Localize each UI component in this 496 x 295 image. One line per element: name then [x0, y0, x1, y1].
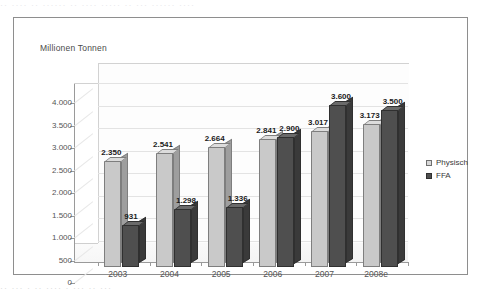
bar-front-face	[381, 110, 398, 268]
y-axis-tick-label: 2.000	[26, 188, 72, 197]
bar-front-face	[122, 225, 139, 267]
bar-ffa-2005[interactable]	[226, 207, 243, 267]
legend-swatch-icon-physisch	[426, 160, 432, 166]
x-axis-label-2005: 2005	[198, 269, 244, 279]
data-label-ffa-2006: 2.900	[279, 124, 299, 133]
legend-label-ffa: FFA	[436, 171, 451, 180]
data-label-physisch-2004: 2.541	[153, 140, 173, 149]
bar-physisch-2008e[interactable]	[363, 124, 380, 267]
x-axis-tick	[408, 262, 409, 266]
gridline	[98, 128, 408, 129]
gridline	[98, 151, 408, 152]
data-label-ffa-2008e: 3.500	[383, 97, 403, 106]
y-axis-depth-line	[74, 223, 94, 239]
data-label-physisch-2003: 2.350	[101, 148, 121, 157]
bar-side-face	[294, 128, 301, 263]
bar-front-face	[311, 131, 328, 267]
data-label-ffa-2007: 3.600	[331, 92, 351, 101]
scanned-text-fragment-bottom: ·· ··· · ·· ···· · ··· ·· ···	[0, 283, 496, 295]
x-axis-tick	[150, 262, 151, 266]
bar-front-face	[226, 207, 243, 267]
x-axis-label-2007: 2007	[302, 269, 348, 279]
chart-floor-left-edge	[74, 243, 98, 264]
y-axis-tick-label: 1.000	[26, 233, 72, 242]
data-label-physisch-2007: 3.017	[308, 118, 328, 127]
y-axis-depth-line	[74, 111, 94, 127]
data-label-physisch-2006: 2.841	[256, 126, 276, 135]
x-axis-tick	[253, 262, 254, 266]
data-label-ffa-2005: 1.336	[228, 194, 248, 203]
bar-physisch-2005[interactable]	[208, 147, 225, 267]
x-axis-tick	[356, 262, 357, 266]
data-label-physisch-2005: 2.664	[205, 134, 225, 143]
x-axis-tick	[305, 262, 306, 266]
y-axis-depth-line	[74, 268, 94, 284]
x-axis-tick	[98, 262, 99, 266]
bar-side-face	[346, 97, 353, 263]
y-axis-tick-label: 3.000	[26, 143, 72, 152]
legend-item-ffa[interactable]: FFA	[426, 171, 468, 180]
y-axis-title: Millionen Tonnen	[40, 43, 107, 53]
y-axis-tick-label: 1.500	[26, 211, 72, 220]
bar-ffa-2004[interactable]	[174, 209, 191, 267]
gridline	[98, 196, 408, 197]
bar-ffa-2003[interactable]	[122, 225, 139, 267]
data-label-ffa-2003: 931	[124, 212, 137, 221]
data-label-ffa-2004: 1.298	[176, 196, 196, 205]
scanned-text-fragment-top: ·· ···· ·· ······ ·· ···· ····· ·· ··· ·…	[0, 0, 496, 12]
y-axis-tick-label: 4.000	[26, 98, 72, 107]
bar-physisch-2007[interactable]	[311, 131, 328, 267]
legend-item-physisch[interactable]: Physisch	[426, 158, 468, 167]
bar-physisch-2006[interactable]	[259, 139, 276, 267]
legend-label-physisch: Physisch	[436, 158, 468, 167]
gridline	[98, 173, 408, 174]
bar-front-face	[363, 124, 380, 267]
gridline	[98, 106, 408, 107]
x-axis-label-2006: 2006	[250, 269, 296, 279]
bar-physisch-2003[interactable]	[104, 161, 121, 267]
chart-frame: Millionen Tonnen 05001.0001.5002.0002.50…	[13, 17, 468, 275]
y-axis-depth-line	[74, 178, 94, 194]
chart-legend: Physisch FFA	[426, 158, 468, 184]
y-axis-depth-line	[74, 156, 94, 172]
bar-front-face	[208, 147, 225, 267]
y-axis-depth-line	[74, 133, 94, 149]
bar-front-face	[104, 161, 121, 267]
gridline	[98, 83, 408, 84]
x-axis-label-2008e: 2008e	[353, 269, 399, 279]
y-axis-tick-label: 500	[26, 256, 72, 265]
plot-area: 05001.0001.5002.0002.5003.0003.5004.000 …	[74, 63, 424, 263]
bar-side-face	[398, 101, 405, 263]
data-label-physisch-2008e: 3.173	[360, 111, 380, 120]
y-axis-depth-line	[74, 201, 94, 217]
bar-ffa-2007[interactable]	[329, 105, 346, 267]
x-axis-tick	[201, 262, 202, 266]
bar-ffa-2006[interactable]	[277, 137, 294, 268]
x-axis-label-2003: 2003	[95, 269, 141, 279]
bar-front-face	[329, 105, 346, 267]
bar-ffa-2008e[interactable]	[381, 110, 398, 268]
bar-side-face	[191, 200, 198, 263]
bar-front-face	[156, 153, 173, 267]
x-axis-label-2004: 2004	[147, 269, 193, 279]
legend-swatch-icon-ffa	[426, 173, 432, 179]
y-axis-tick-label: 2.500	[26, 166, 72, 175]
bar-front-face	[277, 137, 294, 268]
bar-physisch-2004[interactable]	[156, 153, 173, 267]
bar-front-face	[259, 139, 276, 267]
y-axis-tick-label: 3.500	[26, 121, 72, 130]
bar-side-face	[243, 199, 250, 263]
bar-front-face	[174, 209, 191, 267]
